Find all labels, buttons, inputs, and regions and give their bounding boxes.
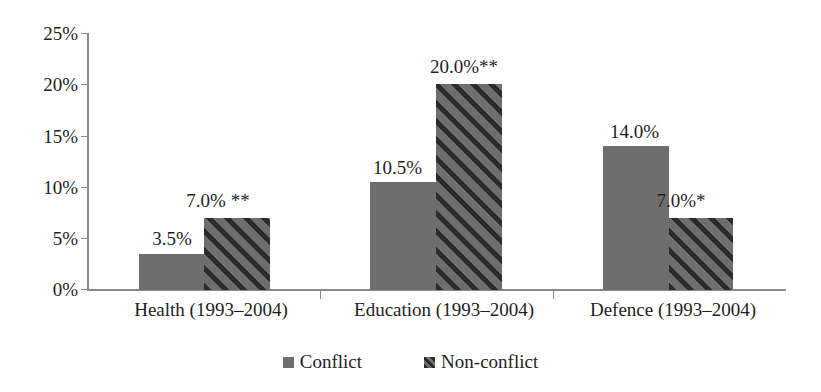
legend-label-nonconflict: Non-conflict bbox=[441, 352, 538, 372]
bar-defence-conflict[interactable] bbox=[603, 146, 669, 290]
value-label-education-conflict: 10.5% bbox=[345, 157, 450, 178]
y-axis-label-0: 0% bbox=[18, 280, 78, 299]
legend-swatch-solid-icon bbox=[283, 357, 294, 368]
bar-education-conflict[interactable] bbox=[370, 182, 436, 290]
y-axis-label-25: 25% bbox=[18, 24, 78, 43]
legend-swatch-hatched-icon bbox=[424, 357, 435, 368]
y-axis-tick-5 bbox=[81, 238, 88, 239]
x-axis-category-education: Education (1993–2004) bbox=[306, 299, 582, 321]
chart-legend: Conflict Non-conflict bbox=[0, 352, 821, 372]
legend-item-conflict[interactable]: Conflict bbox=[283, 352, 362, 372]
y-axis-label-15: 15% bbox=[18, 127, 78, 146]
y-axis-tick-20 bbox=[81, 84, 88, 85]
value-label-defence-conflict: 14.0% bbox=[582, 121, 687, 142]
legend-label-conflict: Conflict bbox=[300, 352, 362, 372]
x-axis-tick-1 bbox=[320, 291, 321, 299]
y-axis-tick-0 bbox=[81, 289, 88, 290]
value-label-health-conflict: 3.5% bbox=[121, 228, 223, 249]
y-axis-label-5: 5% bbox=[18, 229, 78, 248]
bar-education-nonconflict[interactable] bbox=[436, 84, 502, 290]
bar-health-conflict[interactable] bbox=[139, 254, 204, 290]
y-axis-tick-15 bbox=[81, 136, 88, 137]
y-axis-label-10: 10% bbox=[18, 178, 78, 197]
legend-item-nonconflict[interactable]: Non-conflict bbox=[424, 352, 538, 372]
x-axis-tick-2 bbox=[553, 291, 554, 299]
x-axis-category-defence: Defence (1993–2004) bbox=[548, 299, 798, 321]
bar-chart: 25% 20% 15% 10% 5% 0% 3.5% 7.0% ** 10.5%… bbox=[0, 0, 821, 392]
x-axis-category-health: Health (1993–2004) bbox=[86, 299, 336, 321]
y-axis-tick-10 bbox=[81, 187, 88, 188]
bar-defence-nonconflict[interactable] bbox=[669, 218, 733, 290]
value-label-education-nonconflict: 20.0%** bbox=[390, 56, 538, 77]
value-label-health-nonconflict: 7.0% ** bbox=[152, 190, 284, 211]
value-label-defence-nonconflict: 7.0%* bbox=[621, 190, 741, 211]
y-axis-tick-25 bbox=[81, 33, 88, 34]
y-axis-label-20: 20% bbox=[18, 75, 78, 94]
